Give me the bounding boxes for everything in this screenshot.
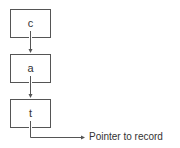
arrowhead-icon (81, 136, 85, 140)
pointer-to-record-label: Pointer to record (89, 131, 163, 143)
arrow-t-to-record (31, 121, 83, 138)
arrowhead-icon (29, 94, 33, 98)
arrowhead-icon (29, 49, 33, 53)
connector-arrows (0, 0, 180, 148)
